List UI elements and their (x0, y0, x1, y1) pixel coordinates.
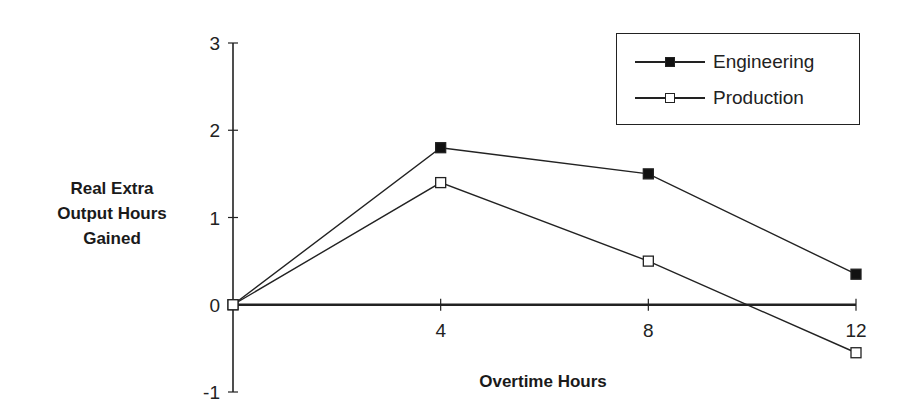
y-axis-label: Real Extra Output Hours Gained (42, 176, 182, 251)
y-tick-label: 2 (209, 120, 220, 141)
filled-square-marker-icon (643, 169, 653, 179)
y-axis-label-line-2: Output Hours (42, 201, 182, 226)
legend-line-icon (635, 86, 705, 110)
y-tick-label: -1 (203, 382, 220, 403)
hollow-square-marker-icon (665, 93, 675, 103)
legend-item-production: Production (635, 86, 804, 110)
filled-square-marker-icon (436, 143, 446, 153)
series-lines (228, 143, 861, 358)
hollow-square-marker-icon (851, 348, 861, 358)
y-tick-label: 0 (209, 295, 220, 316)
y-axis-label-line-1: Real Extra (42, 176, 182, 201)
y-axis-label-line-3: Gained (42, 226, 182, 251)
filled-square-marker-icon (851, 269, 861, 279)
legend-label: Production (713, 87, 804, 109)
legend-label: Engineering (713, 51, 814, 73)
x-tick-label: 8 (643, 320, 654, 341)
x-tick-label: 12 (845, 320, 866, 341)
y-tick-label: 1 (209, 208, 220, 229)
hollow-square-marker-icon (436, 178, 446, 188)
legend-line-icon (635, 50, 705, 74)
series-line-production (233, 183, 856, 353)
hollow-square-marker-icon (228, 300, 238, 310)
legend: Engineering Production (616, 33, 860, 125)
legend-item-engineering: Engineering (635, 50, 814, 74)
x-tick-label: 4 (435, 320, 446, 341)
x-axis-label: Overtime Hours (443, 372, 643, 392)
y-tick-label: 3 (209, 33, 220, 54)
hollow-square-marker-icon (643, 256, 653, 266)
series-line-engineering (233, 148, 856, 305)
filled-square-marker-icon (665, 57, 675, 67)
